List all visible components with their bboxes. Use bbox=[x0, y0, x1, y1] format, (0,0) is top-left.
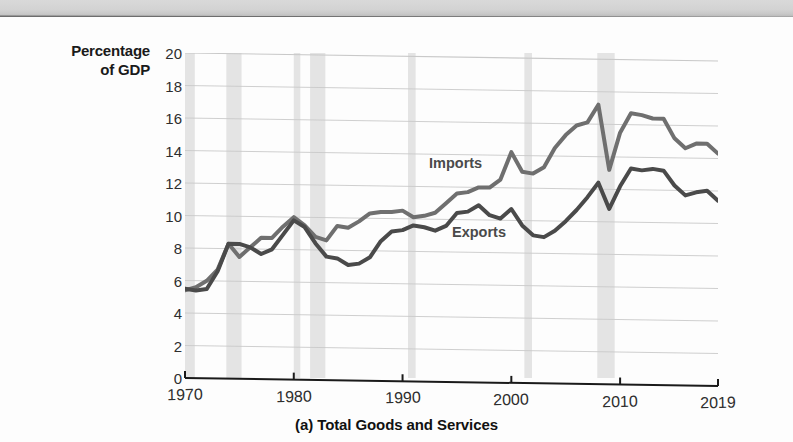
gridline bbox=[185, 118, 718, 126]
y-axis-title: Percentage of GDP bbox=[28, 41, 150, 79]
gridlines bbox=[185, 53, 718, 354]
gridline bbox=[185, 313, 718, 321]
y-tick-12: 12 bbox=[165, 175, 182, 192]
recession-band bbox=[310, 53, 325, 378]
y-tick-10: 10 bbox=[165, 207, 182, 224]
y-tick-6: 6 bbox=[174, 272, 182, 289]
gridline bbox=[185, 53, 718, 61]
y-tick-8: 8 bbox=[174, 240, 182, 257]
x-tick-1980: 1980 bbox=[276, 387, 312, 406]
plot-svg bbox=[185, 53, 718, 378]
x-tick-2019: 2019 bbox=[700, 394, 736, 413]
y-axis-tick-labels: 02468101214161820 bbox=[148, 45, 182, 390]
x-tick-2010: 2010 bbox=[602, 392, 638, 411]
y-tick-4: 4 bbox=[174, 305, 182, 322]
x-tick-1990: 1990 bbox=[385, 389, 421, 408]
chart-figure: Percentage of GDP 02468101214161820 1970… bbox=[0, 0, 793, 442]
series-label-imports: Imports bbox=[429, 155, 482, 171]
gridline bbox=[185, 183, 718, 191]
y-axis-title-line-1: Percentage bbox=[28, 41, 150, 60]
data-series-lines bbox=[185, 105, 718, 291]
y-tick-14: 14 bbox=[165, 142, 182, 159]
series-label-exports: Exports bbox=[452, 224, 506, 240]
recession-band bbox=[226, 53, 241, 378]
figure-caption: (a) Total Goods and Services bbox=[0, 416, 793, 433]
gridline bbox=[185, 86, 718, 94]
x-tick-1970: 1970 bbox=[167, 386, 203, 405]
y-axis-title-line-2: of GDP bbox=[28, 60, 150, 79]
gridline bbox=[185, 346, 718, 354]
plot-area bbox=[185, 53, 718, 378]
recession-band bbox=[524, 53, 532, 378]
gridline bbox=[185, 281, 718, 289]
y-tick-20: 20 bbox=[165, 45, 182, 62]
recession-band bbox=[597, 53, 614, 378]
y-tick-16: 16 bbox=[165, 110, 182, 127]
x-tick-2000: 2000 bbox=[493, 391, 529, 410]
recession-bands bbox=[185, 53, 615, 378]
series-line-imports bbox=[185, 105, 718, 291]
y-tick-18: 18 bbox=[165, 77, 182, 94]
x-axis-tick-labels: 197019801990200020102019 bbox=[0, 382, 793, 412]
y-tick-2: 2 bbox=[174, 337, 182, 354]
